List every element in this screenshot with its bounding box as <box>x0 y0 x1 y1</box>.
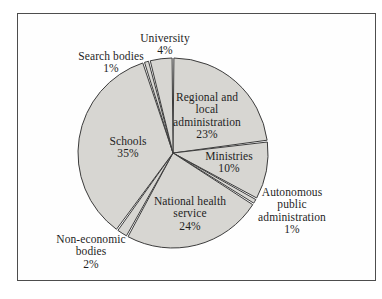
slice-label-ministries: Ministries 10% <box>205 150 253 175</box>
slice-label-university: University 4% <box>140 32 190 57</box>
slice-label-non-economic-bodies: Non-economic bodies 2% <box>56 233 126 270</box>
slice-label-autonomous-public-administration: Autonomous public administration 1% <box>258 186 326 236</box>
slice-label-schools: Schools 35% <box>109 135 146 160</box>
slice-label-search-bodies: Search bodies 1% <box>78 50 144 75</box>
slice-label-national-health-service: National health service 24% <box>154 195 226 232</box>
slice-label-regional-and-local-administration: Regional and local administration 23% <box>173 91 241 141</box>
